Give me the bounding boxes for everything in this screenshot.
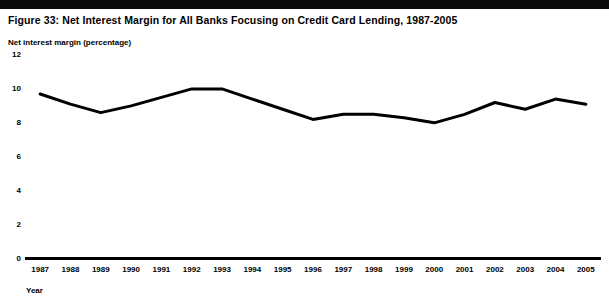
y-tick-label: 2	[1, 221, 21, 229]
y-tick-label: 0	[1, 255, 21, 263]
x-axis-line	[25, 257, 601, 260]
x-tick-label: 2005	[566, 265, 606, 274]
y-axis-title: Net interest margin (percentage)	[8, 38, 131, 47]
y-tick-label: 4	[1, 187, 21, 195]
y-tick-label: 10	[1, 85, 21, 93]
series-polyline	[40, 89, 586, 123]
y-axis-tick-labels: 024681012	[0, 0, 21, 303]
scan-artifact-bar	[0, 0, 609, 9]
y-tick-label: 12	[1, 51, 21, 59]
x-axis-tick-labels: 1987198819891990199119921993199419951996…	[25, 265, 601, 277]
figure-title: Figure 33: Net Interest Margin for All B…	[8, 14, 457, 26]
y-tick-label: 8	[1, 119, 21, 127]
y-tick-label: 6	[1, 153, 21, 161]
x-axis-title: Year	[26, 286, 43, 295]
